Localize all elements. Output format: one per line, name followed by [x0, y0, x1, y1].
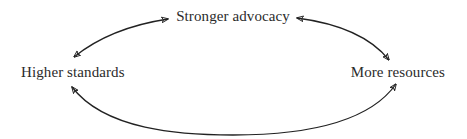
- arrow-standards-resources: [72, 84, 396, 135]
- node-more-resources: More resources: [351, 63, 445, 81]
- node-higher-standards: Higher standards: [21, 63, 125, 81]
- arrow-advocacy-resources: [297, 18, 389, 60]
- arrow-standards-advocacy: [74, 19, 168, 57]
- node-stronger-advocacy: Stronger advocacy: [176, 7, 290, 25]
- cycle-diagram: Stronger advocacy Higher standards More …: [0, 0, 467, 139]
